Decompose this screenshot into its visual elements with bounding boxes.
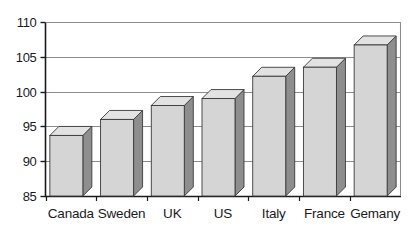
bar-uk <box>151 97 193 196</box>
bar-front-face <box>354 45 387 196</box>
category-label-gemany: Gemany <box>350 206 400 221</box>
y-tick-label-100: 100 <box>16 85 37 100</box>
bar-front-face <box>202 99 235 196</box>
y-tick-label-95: 95 <box>23 119 37 134</box>
bar-side-face <box>83 126 92 196</box>
bar-side-face <box>387 36 396 196</box>
bar-side-face <box>184 97 193 196</box>
category-label-france: France <box>304 206 345 221</box>
bar-italy <box>253 67 295 196</box>
y-tick-label-110: 110 <box>17 15 37 30</box>
bar-side-face <box>286 67 295 196</box>
bar-front-face <box>151 106 184 196</box>
bar-front-face <box>50 135 83 196</box>
category-label-sweden: Sweden <box>98 206 146 221</box>
bar-front-face <box>253 76 286 196</box>
category-label-canada: Canada <box>48 206 95 221</box>
bar-side-face <box>235 90 244 196</box>
bar-canada <box>50 126 92 196</box>
bar-us <box>202 90 244 196</box>
bar-side-face <box>336 58 345 196</box>
y-tick-label-85: 85 <box>23 189 37 204</box>
bar-side-face <box>134 110 143 196</box>
bar-front-face <box>303 67 336 196</box>
bar-front-face <box>101 119 134 196</box>
bar-chart: 859095100105110 CanadaSwedenUKUSItalyFra… <box>0 0 417 241</box>
bar-sweden <box>101 110 143 196</box>
category-label-italy: Italy <box>262 206 286 221</box>
category-label-uk: UK <box>163 206 182 221</box>
bar-gemany <box>354 36 396 196</box>
y-tick-label-105: 105 <box>16 50 37 65</box>
bar-france <box>303 58 345 196</box>
category-label-us: US <box>214 206 233 221</box>
y-tick-label-90: 90 <box>23 154 37 169</box>
chart-canvas: 859095100105110 CanadaSwedenUKUSItalyFra… <box>0 0 417 241</box>
